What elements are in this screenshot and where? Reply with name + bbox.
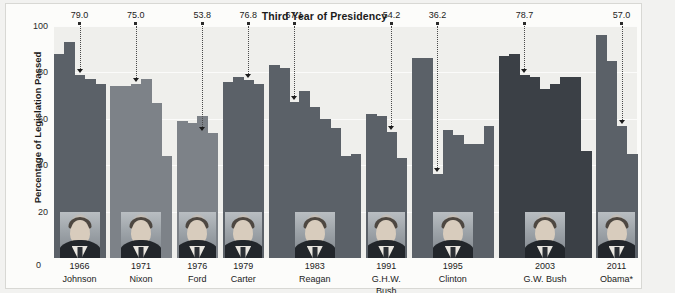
- callout-leader-line: [80, 26, 81, 69]
- x-label-president: Clinton: [412, 273, 494, 286]
- callout-dot: [620, 22, 623, 25]
- y-axis-tick: 100: [33, 21, 48, 31]
- value-callout: 67.1: [264, 10, 324, 102]
- value-callout: 78.7: [494, 10, 554, 75]
- x-label-year: 2003: [499, 260, 591, 273]
- y-axis-tick: 20: [38, 207, 48, 217]
- callout-leader-line: [294, 26, 295, 96]
- president-portrait: [225, 212, 262, 258]
- x-label-president: Ford: [177, 273, 218, 286]
- value-label: 53.8: [194, 10, 212, 20]
- bar[interactable]: [340, 156, 351, 258]
- callout-arrow-icon: [77, 69, 83, 73]
- portrait-tie: [384, 247, 389, 258]
- source-credit-line-2: CLINTON, G.W. BUSH, AND OBAMA: www.defen…: [624, 0, 631, 4]
- value-label: 78.7: [516, 10, 534, 20]
- chart-card: Third Year of Presidency Percentage of L…: [5, 3, 642, 289]
- callout-arrow-icon: [291, 96, 297, 100]
- callout-leader-line: [622, 26, 623, 120]
- x-axis-label: 2003G.W. Bush: [499, 260, 591, 285]
- president-portrait: [60, 212, 100, 258]
- portrait-tie: [77, 247, 82, 258]
- bar[interactable]: [110, 86, 121, 258]
- x-axis-label: 1983Reagan: [269, 260, 361, 285]
- x-label-president: Nixon: [110, 273, 171, 286]
- x-axis-label: 1971Nixon: [110, 260, 171, 285]
- x-label-year: 1979: [223, 260, 264, 273]
- callout-dot: [201, 22, 204, 25]
- y-axis-title: Percentage of Legislation Passed: [32, 33, 43, 223]
- callout-leader-line: [391, 26, 392, 126]
- source-credit-line-1: NIXON AND REAGAN: www.archives.gov; CART…: [632, 0, 639, 4]
- x-label-president: G.W. Bush: [499, 273, 591, 286]
- value-callout: 79.0: [50, 10, 110, 75]
- value-label: 54.2: [383, 10, 401, 20]
- x-label-president: Obama*: [596, 273, 637, 286]
- bar[interactable]: [351, 154, 362, 258]
- x-label-year: 1983: [269, 260, 361, 273]
- x-label-year: 1995: [412, 260, 494, 273]
- chart-figure: Third Year of Presidency Percentage of L…: [0, 0, 675, 293]
- president-portrait: [121, 212, 161, 258]
- x-axis-label: 1991G.H.W. Bush: [366, 260, 407, 293]
- bar[interactable]: [571, 77, 582, 258]
- x-label-year: 1966: [54, 260, 105, 273]
- president-portrait: [598, 212, 635, 258]
- y-axis-tick: 40: [38, 160, 48, 170]
- y-axis-tick-zero: 0: [36, 260, 41, 270]
- bar[interactable]: [161, 156, 172, 258]
- callout-arrow-icon: [619, 120, 625, 124]
- bar[interactable]: [581, 151, 592, 258]
- x-axis-label: 1966Johnson: [54, 260, 105, 285]
- president-portrait: [525, 212, 565, 258]
- callout-leader-line: [437, 26, 438, 168]
- callout-arrow-icon: [133, 78, 139, 82]
- callout-arrow-icon: [521, 69, 527, 73]
- value-label: 79.0: [71, 10, 89, 20]
- value-label: 57.0: [613, 10, 631, 20]
- callout-leader-line: [524, 26, 525, 69]
- x-label-year: 1971: [110, 260, 171, 273]
- portrait-tie: [542, 247, 547, 258]
- callout-dot: [78, 22, 81, 25]
- x-label-president: Johnson: [54, 273, 105, 286]
- president-portrait: [295, 212, 335, 258]
- callout-arrow-icon: [434, 168, 440, 172]
- x-axis-label: 1979Carter: [223, 260, 264, 285]
- portrait-tie: [614, 247, 619, 258]
- callout-leader-line: [136, 26, 137, 78]
- bar[interactable]: [499, 56, 510, 258]
- x-axis-labels: 1966Johnson1971Nixon1976Ford1979Carter19…: [54, 260, 637, 292]
- portrait-tie: [312, 247, 317, 258]
- source-credit: NIXON AND REAGAN: www.archives.gov; CART…: [609, 0, 639, 4]
- bar[interactable]: [484, 126, 495, 258]
- bar[interactable]: [509, 54, 520, 258]
- callout-leader-line: [248, 26, 249, 74]
- portrait-tie: [195, 247, 200, 258]
- callout-arrow-icon: [245, 74, 251, 78]
- callout-dot: [293, 22, 296, 25]
- callout-dot: [247, 22, 250, 25]
- callout-arrow-icon: [388, 126, 394, 130]
- callout-dot: [523, 22, 526, 25]
- callout-leader-line: [202, 26, 203, 127]
- president-portrait: [368, 212, 405, 258]
- bar[interactable]: [473, 144, 484, 258]
- x-label-year: 1991: [366, 260, 407, 273]
- president-portrait: [179, 212, 216, 258]
- value-callout: 75.0: [106, 10, 166, 84]
- x-axis-label: 2011Obama*: [596, 260, 637, 285]
- value-label: 67.1: [286, 10, 304, 20]
- y-axis-tick: 80: [38, 67, 48, 77]
- callout-dot: [436, 22, 439, 25]
- president-portrait: [433, 212, 473, 258]
- x-axis-label: 1995Clinton: [412, 260, 494, 285]
- value-label: 36.2: [429, 10, 447, 20]
- callout-arrow-icon: [199, 127, 205, 131]
- x-label-year: 2011: [596, 260, 637, 273]
- portrait-tie: [450, 247, 455, 258]
- x-label-year: 1976: [177, 260, 218, 273]
- value-label: 75.0: [127, 10, 145, 20]
- portrait-tie: [241, 247, 246, 258]
- callout-dot: [134, 22, 137, 25]
